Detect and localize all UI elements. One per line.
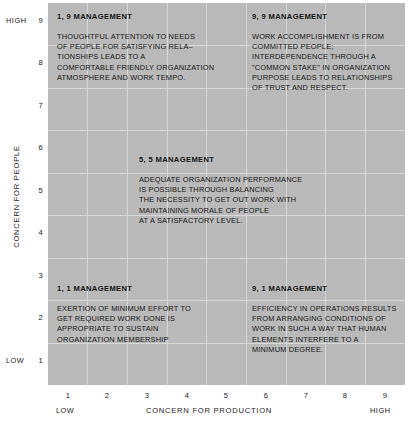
y-axis-tick-2: 2: [29, 313, 43, 322]
grid-cell-text-line: APPROPRIATE TO SUSTAIN: [57, 324, 191, 334]
x-axis-tick-9: 9: [375, 391, 395, 400]
grid-cell-1-1-body: EXERTION OF MINIMUM EFFORT TO GET REQUIR…: [57, 304, 191, 345]
grid-cell-text-line: "COMMON STAKE" IN ORGANIZATION: [252, 63, 393, 73]
x-axis-title: CONCERN FOR PRODUCTION: [0, 406, 418, 415]
grid-cell-text-line: ELEMENTS INTERFERE TO A: [252, 335, 397, 345]
x-axis-tick-5: 5: [216, 391, 236, 400]
grid-cell-text-line: PURPOSE LEADS TO RELATIONSHIPS: [252, 73, 393, 83]
y-axis-tick-7: 7: [29, 101, 43, 110]
grid-cell-text-line: OF PEOPLE FOR SATISFYING RELA–: [57, 42, 214, 52]
y-axis-tick-5: 5: [29, 186, 43, 195]
y-axis-tick-1: 1: [29, 356, 43, 365]
grid-cell-text-line: OF TRUST AND RESPECT.: [252, 83, 393, 93]
x-axis-tick-7: 7: [296, 391, 316, 400]
x-axis-tick-1: 1: [58, 391, 78, 400]
x-axis-tick-2: 2: [97, 391, 117, 400]
grid-cell-5-5: 5, 5 MANAGEMENT ADEQUATE ORGANIZATION PE…: [139, 155, 302, 226]
y-axis-tick-9: 9: [29, 16, 43, 25]
grid-cell-1-9-title: 1, 9 MANAGEMENT: [57, 12, 214, 21]
managerial-grid-figure: 1, 9 MANAGEMENT THOUGHTFUL ATTENTION TO …: [0, 0, 418, 423]
grid-cell-text-line: AT A SATISFACTORY LEVEL.: [139, 216, 302, 226]
y-axis-title: CONCERN FOR PEOPLE: [12, 137, 21, 257]
x-axis-tick-6: 6: [256, 391, 276, 400]
grid-cell-text-line: COMMITTED PEOPLE;: [252, 42, 393, 52]
grid-cell-5-5-body: ADEQUATE ORGANIZATION PERFORMANCE IS POS…: [139, 175, 302, 226]
grid-cell-text-line: WORK ACCOMPLISHMENT IS FROM: [252, 32, 393, 42]
grid-cell-text-line: FROM ARRANGING CONDITIONS OF: [252, 314, 397, 324]
grid-cell-9-9-body: WORK ACCOMPLISHMENT IS FROM COMMITTED PE…: [252, 32, 393, 93]
gridline-horizontal: [48, 258, 405, 259]
y-axis-tick-8: 8: [29, 58, 43, 67]
grid-cell-text-line: MAINTAINING MORALE OF PEOPLE: [139, 206, 302, 216]
y-axis-high-label: HIGH: [6, 16, 26, 25]
grid-cell-text-line: EFFICIENCY IN OPERATIONS RESULTS: [252, 304, 397, 314]
grid-cell-1-1: 1, 1 MANAGEMENT EXERTION OF MINIMUM EFFO…: [57, 284, 191, 345]
grid-cell-text-line: MINIMUM DEGREE.: [252, 345, 397, 355]
grid-cell-text-line: EXERTION OF MINIMUM EFFORT TO: [57, 304, 191, 314]
grid-cell-text-line: ATMOSPHERE AND WORK TEMPO.: [57, 73, 214, 83]
grid-cell-1-1-title: 1, 1 MANAGEMENT: [57, 284, 191, 293]
y-axis-tick-3: 3: [29, 271, 43, 280]
grid-cell-9-9-title: 9, 9 MANAGEMENT: [252, 12, 393, 21]
x-axis-tick-3: 3: [137, 391, 157, 400]
grid-cell-9-1: 9, 1 MANAGEMENT EFFICIENCY IN OPERATIONS…: [252, 284, 397, 355]
y-axis-tick-6: 6: [29, 143, 43, 152]
grid-cell-9-1-title: 9, 1 MANAGEMENT: [252, 284, 397, 293]
grid-cell-text-line: IS POSSIBLE THROUGH BALANCING: [139, 185, 302, 195]
grid-cell-9-1-body: EFFICIENCY IN OPERATIONS RESULTS FROM AR…: [252, 304, 397, 355]
grid-cell-text-line: ADEQUATE ORGANIZATION PERFORMANCE: [139, 175, 302, 185]
x-axis-tick-4: 4: [177, 391, 197, 400]
grid-cell-9-9: 9, 9 MANAGEMENT WORK ACCOMPLISHMENT IS F…: [252, 12, 393, 93]
grid-cell-1-9: 1, 9 MANAGEMENT THOUGHTFUL ATTENTION TO …: [57, 12, 214, 83]
grid-cell-text-line: ORGANIZATION MEMBERSHIP: [57, 335, 191, 345]
x-axis-high-label: HIGH: [370, 406, 390, 415]
grid-cell-text-line: THE NECESSITY TO GET OUT WORK WITH: [139, 195, 302, 205]
y-axis-tick-4: 4: [29, 228, 43, 237]
grid-plot-area: 1, 9 MANAGEMENT THOUGHTFUL ATTENTION TO …: [48, 3, 405, 385]
grid-cell-1-9-body: THOUGHTFUL ATTENTION TO NEEDS OF PEOPLE …: [57, 32, 214, 83]
grid-cell-text-line: INTERDEPENDENCE THROUGH A: [252, 52, 393, 62]
grid-cell-text-line: THOUGHTFUL ATTENTION TO NEEDS: [57, 32, 214, 42]
grid-cell-text-line: TIONSHIPS LEADS TO A: [57, 52, 214, 62]
grid-cell-text-line: COMFORTABLE FRIENDLY ORGANIZATION: [57, 63, 214, 73]
grid-cell-text-line: WORK IN SUCH A WAY THAT HUMAN: [252, 324, 397, 334]
gridline-horizontal: [48, 130, 405, 131]
grid-cell-text-line: GET REQUIRED WORK DONE IS: [57, 314, 191, 324]
x-axis-tick-8: 8: [335, 391, 355, 400]
y-axis-low-label: LOW: [6, 356, 24, 365]
grid-cell-5-5-title: 5, 5 MANAGEMENT: [139, 155, 302, 164]
